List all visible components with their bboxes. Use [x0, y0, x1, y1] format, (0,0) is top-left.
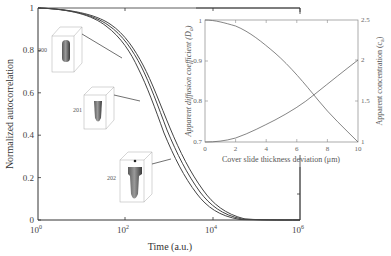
inset-ytick-0.8: 0.8 — [193, 97, 202, 105]
x-tick-1e2: 102 — [117, 224, 129, 235]
pointer-200 — [82, 34, 122, 58]
y-tick-0.4: 0.4 — [23, 130, 35, 140]
psf-render-202: 202 — [107, 152, 171, 202]
y-tick-0.8: 0.8 — [23, 45, 35, 55]
inset-ytick-0.7: 0.7 — [193, 138, 202, 146]
y-tick-0.6: 0.6 — [23, 88, 35, 98]
inset-rtick-1: 1 — [361, 138, 365, 146]
inset-xtick-10: 10 — [355, 145, 363, 153]
psf-sidelobe-202 — [134, 160, 137, 163]
x-tick-1e0: 100 — [30, 224, 42, 235]
y-tick-0.2: 0.2 — [23, 173, 34, 183]
figure: 0 0.2 0.4 0.6 0.8 1 100 102 104 106 Time… — [0, 0, 391, 256]
inset-xtick-2: 2 — [234, 145, 238, 153]
inset-rtick-1.5: 1.5 — [361, 97, 370, 105]
psf-shape-202 — [128, 167, 142, 199]
main-y-tick-labels: 0 0.2 0.4 0.6 0.8 1 — [23, 3, 35, 225]
psf-label-202: 202 — [107, 175, 116, 181]
inset-plot: 0.7 0.8 0.9 1 1 1.5 2 2.5 0 2 4 6 8 10 C… — [184, 8, 391, 220]
inset-ytick-1: 1 — [199, 17, 203, 25]
inset-x-axis-title: Cover slide thickness deviation (μm) — [222, 155, 340, 164]
psf-label-201: 201 — [73, 107, 82, 113]
inset-xtick-8: 8 — [326, 145, 330, 153]
psf-label-200: 200 — [38, 47, 47, 53]
inset-xtick-0: 0 — [203, 145, 207, 153]
x-tick-1e4: 104 — [205, 224, 217, 235]
inset-ytick-0.9: 0.9 — [193, 57, 202, 65]
psf-shape-200 — [62, 40, 70, 62]
inset-xtick-6: 6 — [295, 145, 299, 153]
psf-shape-201 — [94, 101, 102, 122]
main-x-tick-labels: 100 102 104 106 — [30, 224, 304, 235]
inset-xtick-4: 4 — [264, 145, 268, 153]
x-tick-1e6: 106 — [292, 224, 304, 235]
inset-rtick-2.5: 2.5 — [361, 16, 370, 24]
y-tick-0: 0 — [30, 215, 35, 225]
inset-left-axis-title: Apparent diffusion coefficient (Da) — [184, 25, 194, 137]
inset-rtick-2: 2 — [361, 56, 365, 64]
pointer-202 — [152, 159, 171, 164]
psf-render-201: 201 — [73, 87, 140, 129]
main-x-axis-title: Time (a.u.) — [148, 241, 192, 253]
y-tick-1: 1 — [30, 3, 35, 13]
psf-render-200: 200 — [38, 27, 122, 72]
pointer-201 — [114, 95, 140, 101]
inset-right-axis-title: Apparent concentration (ca) — [375, 36, 385, 125]
main-y-axis-title: Normalized autocorrelation — [4, 59, 15, 169]
